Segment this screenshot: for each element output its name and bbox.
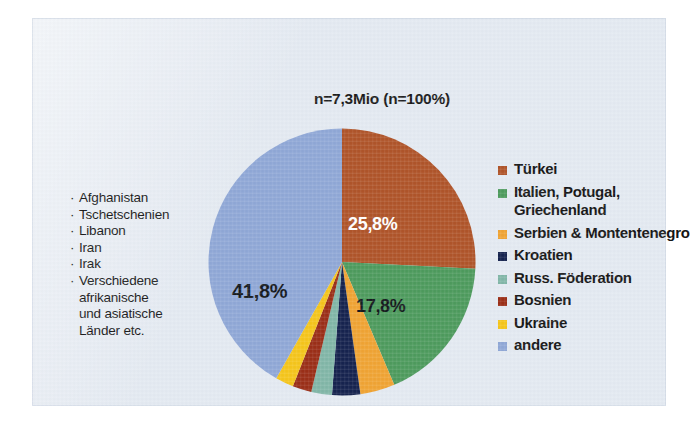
pie-slices bbox=[209, 129, 476, 396]
legend-item[interactable]: Türkei bbox=[498, 160, 698, 179]
legend-item-label: Serbien & Montentenegro bbox=[514, 224, 690, 243]
annotation-item: ·Libanon bbox=[70, 223, 210, 240]
chart-page: n=7,3Mio (n=100%) 25,8% 17,8% 41,8% ·Afg… bbox=[0, 0, 700, 427]
annotation-item: ·Irak bbox=[70, 256, 210, 273]
legend-item-label: Bosnien bbox=[514, 291, 571, 310]
annotation-continuation-line: Länder etc. bbox=[70, 323, 210, 340]
annotation-item-label: Irak bbox=[79, 256, 210, 273]
pie-svg bbox=[208, 128, 476, 396]
annotation-item-label: Iran bbox=[79, 240, 210, 257]
annotation-item-label: Verschiedene bbox=[79, 273, 210, 290]
annotation-item-label: Afghanistan bbox=[79, 190, 210, 207]
legend-item-label: andere bbox=[514, 336, 561, 355]
legend-swatch-icon bbox=[498, 342, 507, 351]
pie-label-turkei: 25,8% bbox=[348, 214, 398, 235]
legend-item-label: Ukraine bbox=[514, 314, 567, 333]
chart-legend: TürkeiItalien, Potugal, GriechenlandSerb… bbox=[498, 160, 698, 359]
annotation-continuation-line: und asiatische bbox=[70, 306, 210, 323]
legend-swatch-icon bbox=[498, 297, 507, 306]
annotation-item: ·Afghanistan bbox=[70, 190, 210, 207]
legend-swatch-icon bbox=[498, 275, 507, 284]
pie-slice[interactable] bbox=[342, 129, 476, 269]
annotation-item-label: Tschetschenien bbox=[79, 207, 210, 224]
bullet-icon: · bbox=[70, 273, 79, 290]
chart-panel: n=7,3Mio (n=100%) 25,8% 17,8% 41,8% ·Afg… bbox=[32, 18, 666, 406]
legend-item-label: Türkei bbox=[514, 160, 557, 179]
legend-swatch-icon bbox=[498, 166, 507, 175]
annotation-item: ·Tschetschenien bbox=[70, 207, 210, 224]
legend-swatch-icon bbox=[498, 252, 507, 261]
legend-item-label: Kroatien bbox=[514, 246, 572, 265]
legend-item[interactable]: andere bbox=[498, 336, 698, 355]
pie-label-italien: 17,8% bbox=[356, 296, 406, 317]
legend-item[interactable]: Serbien & Montentenegro bbox=[498, 224, 698, 243]
bullet-icon: · bbox=[70, 223, 79, 240]
legend-item[interactable]: Kroatien bbox=[498, 246, 698, 265]
bullet-icon: · bbox=[70, 240, 79, 257]
bullet-icon: · bbox=[70, 207, 79, 224]
legend-item[interactable]: Russ. Föderation bbox=[498, 269, 698, 288]
legend-item[interactable]: Bosnien bbox=[498, 291, 698, 310]
legend-item[interactable]: Italien, Potugal, Griechenland bbox=[498, 183, 698, 220]
bullet-icon: · bbox=[70, 256, 79, 273]
legend-item[interactable]: Ukraine bbox=[498, 314, 698, 333]
legend-swatch-icon bbox=[498, 189, 507, 198]
pie-chart: 25,8% 17,8% 41,8% bbox=[208, 128, 476, 396]
annotation-item: ·Verschiedene bbox=[70, 273, 210, 290]
legend-swatch-icon bbox=[498, 320, 507, 329]
annotation-continuation-line: afrikanische bbox=[70, 290, 210, 307]
chart-title: n=7,3Mio (n=100%) bbox=[32, 90, 700, 108]
bullet-icon: · bbox=[70, 190, 79, 207]
annotation-item: ·Iran bbox=[70, 240, 210, 257]
pie-label-andere: 41,8% bbox=[232, 280, 287, 303]
annotation-item-label: Libanon bbox=[79, 223, 210, 240]
annotation-list: ·Afghanistan·Tschetschenien·Libanon·Iran… bbox=[70, 190, 210, 339]
legend-swatch-icon bbox=[498, 230, 507, 239]
legend-item-label: Italien, Potugal, Griechenland bbox=[514, 183, 698, 220]
legend-item-label: Russ. Föderation bbox=[514, 269, 632, 288]
